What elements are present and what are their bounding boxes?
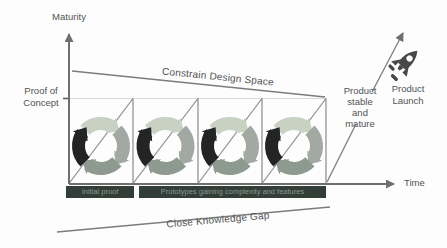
proof-of-concept-label: Proof of Concept [18,85,64,108]
product-launch-label: Product Launch [386,83,430,106]
launch-trajectory-lower [327,124,356,182]
diagram-canvas: Maturity Time Proof of Concept Constrain… [0,0,447,248]
product-stable-mature-label: Product stable and mature [340,85,380,129]
phase-bar-initial-proof: Initial proof [66,186,134,198]
x-axis-label: Time [404,177,444,188]
y-axis-label: Maturity [44,11,94,22]
rocket-icon [383,43,425,85]
phase-bar-prototypes: Prototypes gaining complexity and featur… [139,186,326,198]
